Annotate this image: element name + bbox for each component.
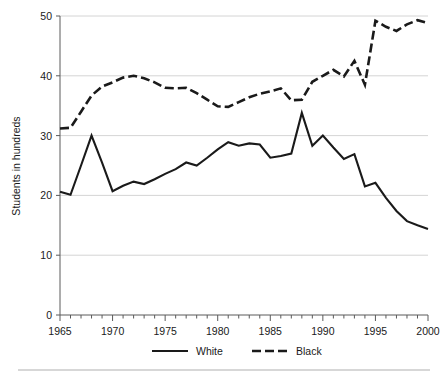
series-line-black [60,20,428,128]
y-tick-labels: 01020304050 [40,10,52,321]
x-tick-label-1985: 1985 [259,325,283,337]
legend-label-black: Black [296,345,322,357]
y-axis-title: Students in hundreds [10,116,22,215]
y-tick-label-50: 50 [40,10,52,22]
x-tick-label-1995: 1995 [364,325,388,337]
y-tick-label-10: 10 [40,249,52,261]
y-tick-label-40: 40 [40,70,52,82]
x-tick-label-1975: 1975 [153,325,177,337]
x-tick-labels: 19651970197519801985199019952000 [48,325,440,337]
x-tick-label-1965: 1965 [48,325,72,337]
chart-legend: WhiteBlack [152,345,322,357]
y-tick-label-30: 30 [40,130,52,142]
x-tick-label-1970: 1970 [101,325,125,337]
y-tick-label-0: 0 [46,309,52,321]
x-tick-label-1980: 1980 [206,325,230,337]
y-tick-label-20: 20 [40,189,52,201]
series-line-white [60,113,428,229]
x-tick-label-2000: 2000 [416,325,440,337]
line-chart: 01020304050 1965197019751980198519901995… [0,0,445,379]
y-tick-marks [56,16,60,315]
data-series [60,20,428,229]
gridlines [60,16,428,255]
x-tick-marks [60,315,428,321]
chart-canvas: 01020304050 1965197019751980198519901995… [0,0,445,379]
legend-label-white: White [196,345,223,357]
x-tick-label-1990: 1990 [311,325,335,337]
